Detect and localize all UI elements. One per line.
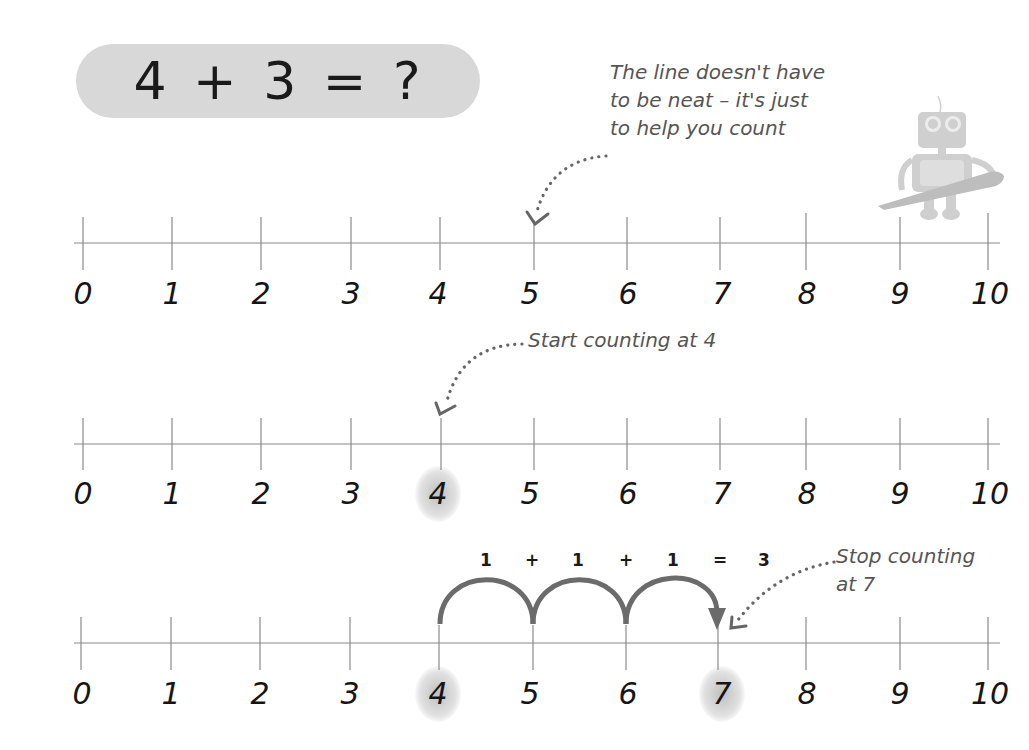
label-0: 0 xyxy=(73,476,92,511)
label-10: 10 xyxy=(971,676,1009,711)
label-4: 4 xyxy=(428,276,447,311)
label-5: 5 xyxy=(520,676,539,711)
label-3: 3 xyxy=(340,676,359,711)
label-5: 5 xyxy=(520,476,539,511)
label-10: 10 xyxy=(971,476,1009,511)
jump-label-equals: = xyxy=(713,550,727,570)
jump-arc-1 xyxy=(440,580,533,624)
label-6: 6 xyxy=(618,676,637,711)
jump-label-total: 3 xyxy=(758,550,770,570)
label-8: 8 xyxy=(797,476,816,511)
label-3: 3 xyxy=(341,476,360,511)
label-6: 6 xyxy=(618,276,637,311)
jump-arcs xyxy=(440,578,717,624)
label-8: 8 xyxy=(797,676,816,711)
label-8: 8 xyxy=(797,276,816,311)
label-2: 2 xyxy=(251,276,270,311)
jump-arc-2 xyxy=(533,580,626,624)
label-9: 9 xyxy=(890,676,909,711)
label-0: 0 xyxy=(72,676,91,711)
arc-arrowhead-icon xyxy=(708,608,726,630)
jump-equation: 1 + 1 + 1 = 3 xyxy=(470,550,780,574)
label-4-highlighted: 4 xyxy=(428,476,447,511)
robot-holding-pencil-icon xyxy=(878,96,1004,220)
label-2: 2 xyxy=(250,676,269,711)
number-lines-diagram xyxy=(0,0,1029,750)
label-9: 9 xyxy=(890,276,909,311)
jump-label-1: 1 xyxy=(480,550,492,570)
label-9: 9 xyxy=(890,476,909,511)
label-10: 10 xyxy=(971,276,1009,311)
label-1: 1 xyxy=(161,676,180,711)
label-0: 0 xyxy=(73,276,92,311)
jump-label-1: 1 xyxy=(572,550,584,570)
label-5: 5 xyxy=(520,276,539,311)
ticks-row-1 xyxy=(83,213,988,270)
label-2: 2 xyxy=(251,476,270,511)
label-4-highlighted: 4 xyxy=(428,676,447,711)
label-7: 7 xyxy=(712,476,731,511)
label-1: 1 xyxy=(162,476,181,511)
dotted-arrow-to-4 xyxy=(436,344,522,414)
dotted-arrow-to-5 xyxy=(527,156,606,224)
label-7-highlighted: 7 xyxy=(712,676,731,711)
jump-label-plus: + xyxy=(525,550,539,570)
jump-arc-3 xyxy=(626,578,717,624)
label-6: 6 xyxy=(618,476,637,511)
jump-label-plus: + xyxy=(619,550,633,570)
label-3: 3 xyxy=(341,276,360,311)
jump-label-1: 1 xyxy=(667,550,679,570)
label-1: 1 xyxy=(162,276,181,311)
label-7: 7 xyxy=(712,276,731,311)
